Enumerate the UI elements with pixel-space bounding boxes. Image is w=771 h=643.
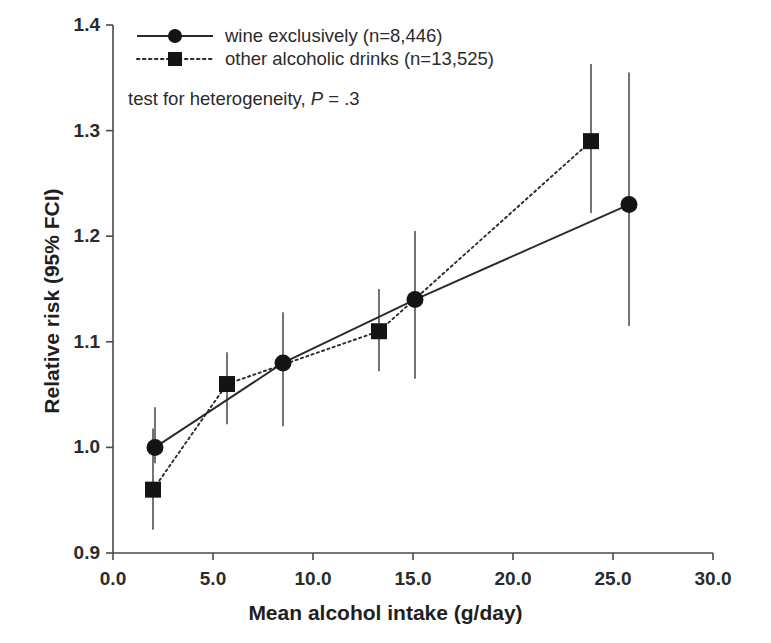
data-point-circle xyxy=(621,196,638,213)
legend-item-wine: wine exclusively (n=8,446) xyxy=(133,24,553,47)
heterogeneity-annotation: test for heterogeneity, P = .3 xyxy=(128,88,360,110)
x-tick-label: 20.0 xyxy=(495,568,532,590)
x-tick-label: 10.0 xyxy=(295,568,332,590)
y-tick-label: 0.9 xyxy=(30,542,100,564)
y-axis-title: Relative risk (95% FCI) xyxy=(40,141,64,461)
chart-legend: wine exclusively (n=8,446) other alcohol… xyxy=(133,24,553,70)
legend-label-other: other alcoholic drinks (n=13,525) xyxy=(221,48,494,70)
chart-figure: 0.91.01.11.21.31.4 0.05.010.015.020.025.… xyxy=(0,0,771,643)
series-markers xyxy=(145,133,638,497)
y-tick-label: 1.4 xyxy=(30,14,100,36)
heterogeneity-label: test for heterogeneity, xyxy=(128,88,306,109)
data-point-circle xyxy=(147,439,164,456)
x-tick-label: 0.0 xyxy=(100,568,126,590)
x-tick-label: 25.0 xyxy=(595,568,632,590)
x-tick-label: 5.0 xyxy=(200,568,226,590)
x-tick-label: 30.0 xyxy=(695,568,732,590)
error-bars xyxy=(153,64,629,530)
legend-marker-square-icon xyxy=(133,48,221,70)
legend-marker-circle-icon xyxy=(133,25,221,47)
series-lines xyxy=(153,141,629,489)
p-symbol: P xyxy=(311,88,323,109)
data-point-square xyxy=(219,376,235,392)
data-point-circle xyxy=(407,291,424,308)
x-axis-title: Mean alcohol intake (g/day) xyxy=(0,601,771,625)
legend-item-other: other alcoholic drinks (n=13,525) xyxy=(133,47,553,70)
x-tick-marks xyxy=(113,553,713,560)
plot-area xyxy=(0,0,771,643)
series-line xyxy=(153,141,591,489)
y-tick-marks xyxy=(106,25,113,553)
x-tick-label: 15.0 xyxy=(395,568,432,590)
data-point-square xyxy=(583,133,599,149)
y-tick-label: 1.3 xyxy=(30,120,100,142)
data-point-square xyxy=(371,323,387,339)
p-value: = .3 xyxy=(328,88,359,109)
data-point-square xyxy=(145,482,161,498)
legend-label-wine: wine exclusively (n=8,446) xyxy=(221,25,442,47)
data-point-circle xyxy=(275,354,292,371)
